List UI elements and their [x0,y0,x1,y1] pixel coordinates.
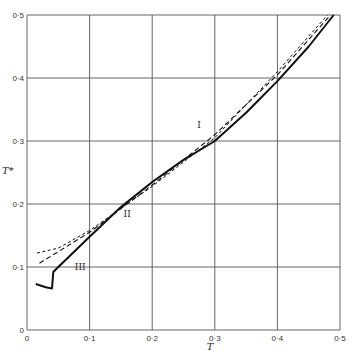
series-line [37,15,328,253]
grid-lines [27,15,340,330]
curve-label: I [197,120,201,130]
series-line [40,15,331,263]
x-tick-label: 0·5 [334,334,346,343]
x-tick-label: 0·1 [84,334,96,343]
y-tick-label: 0·2 [12,200,24,209]
y-tick-label: 0·4 [12,74,24,83]
y-tick-label: 0·3 [12,137,24,146]
y-tick-label: 0·1 [12,263,24,272]
x-tick-label: 0 [25,334,30,343]
series-line [36,15,334,288]
chart: 00·10·20·30·40·500·10·20·30·40·5 IIIIII … [0,0,355,354]
y-tick-label: 0·5 [12,11,24,20]
curve-label: II [124,209,132,219]
y-axis-label: T* [2,165,14,176]
curve-label: III [75,262,86,272]
y-tick-label: 0 [20,326,25,335]
x-tick-label: 0·2 [146,334,158,343]
data-series [36,15,334,288]
x-tick-label: 0·4 [272,334,284,343]
